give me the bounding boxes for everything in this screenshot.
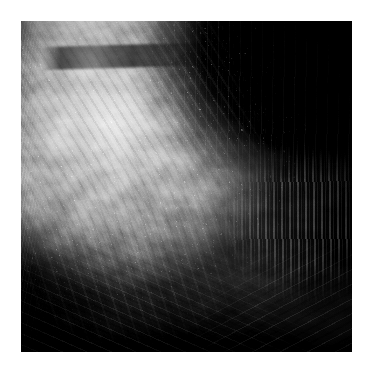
top-crest-highlight — [21, 21, 352, 352]
tonal-base-layer — [21, 21, 352, 352]
lower-striation-layer — [21, 21, 352, 352]
left-edge-granular-layer — [21, 21, 352, 352]
dark-void-vertical-streak-layer — [21, 21, 352, 352]
photograph-plate — [21, 21, 352, 352]
mottle-texture-layer — [21, 21, 352, 352]
film-grain-layer — [21, 21, 352, 352]
halation-glow — [21, 21, 352, 352]
bottom-right-diagonal-streak-layer — [21, 21, 352, 352]
pillar-vertical-fibre-layer — [21, 21, 352, 352]
top-crack-line — [21, 38, 352, 70]
dome-striation-layer — [21, 21, 352, 352]
vignette-layer — [21, 21, 352, 352]
lower-left-diagonal-streak-layer — [21, 21, 352, 352]
page-canvas — [0, 0, 370, 372]
bright-fleck-layer — [21, 21, 352, 352]
